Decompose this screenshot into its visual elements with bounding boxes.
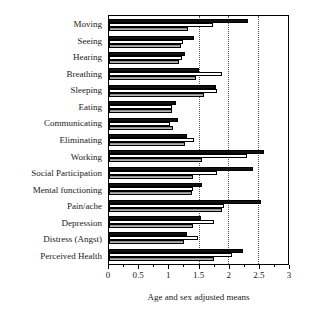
bar-group [109, 83, 288, 99]
y-axis-label: Eliminating [0, 132, 105, 149]
bar-group [109, 66, 288, 82]
bars-layer [109, 16, 288, 264]
y-axis-label: Pain/ache [0, 198, 105, 215]
bar [109, 142, 185, 146]
x-axis-tick-label: 0 [106, 270, 111, 281]
x-axis-tick-label: 1.5 [193, 270, 204, 281]
bar-group [109, 214, 288, 230]
bar-group [109, 230, 288, 246]
bar-chart-figure: MovingSeeingHearingBreathingSleepingEati… [0, 0, 311, 319]
y-axis-label: Social Participation [0, 165, 105, 182]
bar [109, 44, 181, 48]
bar-group [109, 50, 288, 66]
y-axis-label: Breathing [0, 66, 105, 83]
x-axis-tick [259, 265, 260, 269]
x-axis-minor-tick [153, 265, 154, 267]
x-axis-minor-tick [274, 265, 275, 267]
x-axis-minor-tick [214, 265, 215, 267]
bar [109, 76, 196, 80]
bar [109, 257, 214, 261]
x-axis-tick [229, 265, 230, 269]
x-axis-tick [289, 265, 290, 269]
plot-area [108, 15, 289, 265]
bar-group [109, 33, 288, 49]
bar-group [109, 17, 288, 33]
x-axis-tick-label: 2 [226, 270, 231, 281]
x-axis-minor-tick [123, 265, 124, 267]
y-axis-label: Distress (Angst) [0, 231, 105, 248]
x-axis-tick-label: 0.5 [133, 270, 144, 281]
bar [109, 60, 179, 64]
bar [109, 208, 222, 212]
bar-group [109, 247, 288, 263]
bar-group [109, 99, 288, 115]
bar-group [109, 181, 288, 197]
y-axis-label: Perceived Health [0, 247, 105, 264]
y-axis-label: Eating [0, 99, 105, 116]
y-axis-label: Mental functioning [0, 181, 105, 198]
y-axis-label: Working [0, 148, 105, 165]
y-axis-label: Depression [0, 214, 105, 231]
bar [109, 240, 184, 244]
y-axis-label: Moving [0, 16, 105, 33]
x-axis-tick-label: 3 [287, 270, 292, 281]
bar-group [109, 115, 288, 131]
bar [109, 93, 204, 97]
x-axis-tick-label: 2.5 [253, 270, 264, 281]
y-axis-label: Sleeping [0, 82, 105, 99]
bar-group [109, 165, 288, 181]
x-axis-minor-tick [183, 265, 184, 267]
x-axis-tick [138, 265, 139, 269]
y-axis-label: Hearing [0, 49, 105, 66]
bar [109, 191, 192, 195]
x-axis-tick-label: 1 [166, 270, 171, 281]
bar [109, 175, 193, 179]
y-axis-label: Communicating [0, 115, 105, 132]
bar [109, 27, 188, 31]
x-axis-minor-tick [244, 265, 245, 267]
bar-group [109, 197, 288, 213]
bar [109, 109, 172, 113]
x-axis-title: Age and sex adjusted means [108, 292, 289, 303]
y-axis-category-labels: MovingSeeingHearingBreathingSleepingEati… [0, 15, 105, 265]
bar-group [109, 132, 288, 148]
bar [109, 224, 193, 228]
x-axis-tick [199, 265, 200, 269]
bar [109, 158, 202, 162]
x-axis-tick [168, 265, 169, 269]
bar-group [109, 148, 288, 164]
y-axis-label: Seeing [0, 33, 105, 50]
x-axis-tick [108, 265, 109, 269]
bar [109, 126, 173, 130]
